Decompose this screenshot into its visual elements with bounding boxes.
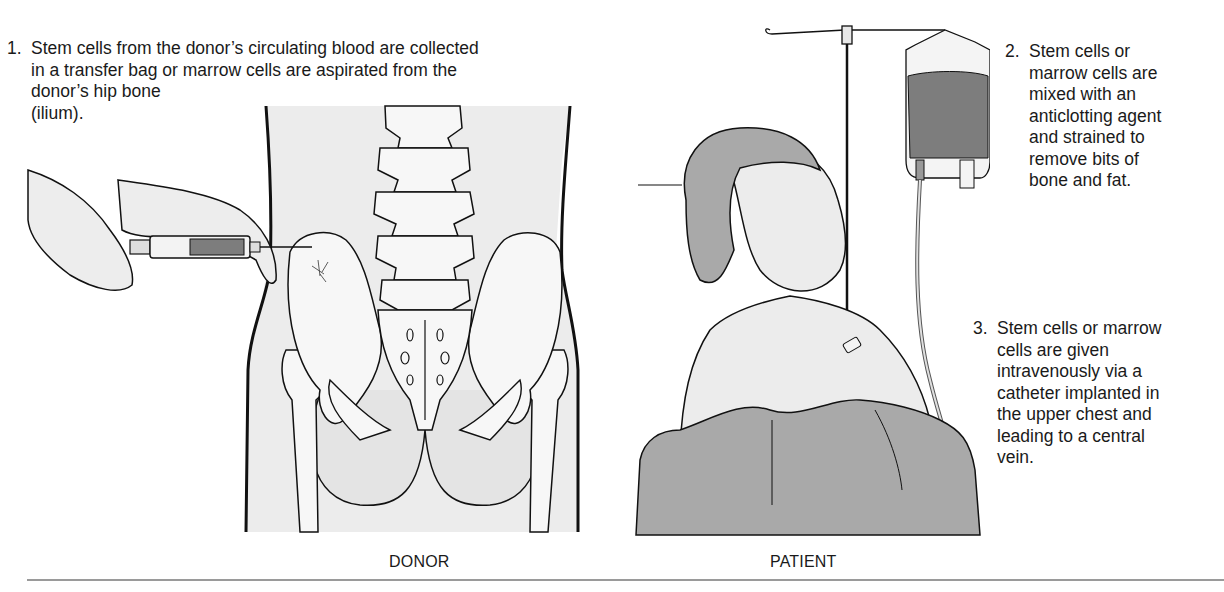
step-2-line: remove bits of xyxy=(1029,149,1161,171)
step-2-line: marrow cells are xyxy=(1029,63,1161,85)
step-3-line: catheter implanted in xyxy=(997,383,1161,405)
step-2-line: Stem cells or xyxy=(1029,41,1161,63)
step-3-line: the upper chest and xyxy=(997,404,1161,426)
step-2-line: and strained to xyxy=(1029,127,1161,149)
left-hand xyxy=(28,170,133,290)
patient-caption: PATIENT xyxy=(770,553,837,571)
step-3-line: vein. xyxy=(997,447,1161,469)
iv-bag xyxy=(906,30,990,188)
step-1-number: 1. xyxy=(7,38,22,60)
step-2-line: bone and fat. xyxy=(1029,170,1161,192)
donor-illustration xyxy=(0,100,600,540)
patient-face xyxy=(722,150,845,291)
step-3-description: 3. Stem cells or marrow cells are given … xyxy=(973,318,1223,488)
step-3-line: intravenously via a xyxy=(997,361,1161,383)
step-3-number: 3. xyxy=(973,318,988,340)
patient-illustration xyxy=(630,0,990,540)
step-2-line: anticlotting agent xyxy=(1029,106,1161,128)
step-2-text: Stem cells or marrow cells are mixed wit… xyxy=(1029,41,1161,192)
step-2-number: 2. xyxy=(1005,41,1020,63)
step-1-line: in a transfer bag or marrow cells are as… xyxy=(31,60,479,82)
right-hand xyxy=(118,180,276,283)
step-2-description: 2. Stem cells or marrow cells are mixed … xyxy=(1005,41,1224,211)
step-1-line: Stem cells from the donor’s circulating … xyxy=(31,38,479,60)
step-3-line: cells are given xyxy=(997,340,1161,362)
bottom-divider xyxy=(27,579,1224,581)
step-3-line: Stem cells or marrow xyxy=(997,318,1161,340)
donor-caption: DONOR xyxy=(389,553,450,571)
step-3-line: leading to a central xyxy=(997,426,1161,448)
step-3-text: Stem cells or marrow cells are given int… xyxy=(997,318,1161,469)
step-2-line: mixed with an xyxy=(1029,84,1161,106)
